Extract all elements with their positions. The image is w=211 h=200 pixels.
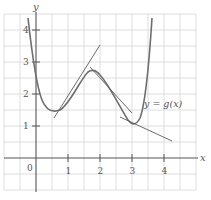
tangent-line-2: [90, 67, 132, 113]
origin-label: 0: [27, 163, 33, 173]
curve-g: [28, 18, 152, 124]
x-tick-label-3: 3: [130, 166, 136, 176]
y-tick-label-3: 3: [23, 57, 29, 67]
x-tick-label-4: 4: [162, 166, 168, 176]
tangent-line-1: [54, 45, 100, 118]
y-tick-label-4: 4: [23, 25, 29, 35]
x-axis-label: x: [200, 152, 206, 163]
y-tick-label-2: 2: [23, 89, 29, 99]
x-tick-label-1: 1: [66, 166, 72, 176]
curve-label: y = g(x): [143, 98, 183, 109]
function-graph: 0 1 2 3 4 1 2 3 4 x y y = g(x): [0, 0, 211, 200]
x-tick-label-2: 2: [98, 166, 104, 176]
y-tick-label-1: 1: [23, 121, 29, 131]
y-axis-label: y: [32, 1, 39, 12]
